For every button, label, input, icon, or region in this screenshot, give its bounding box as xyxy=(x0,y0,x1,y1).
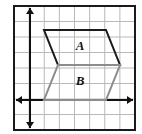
shape-a-label: A xyxy=(75,38,85,53)
coordinate-grid-figure: AB xyxy=(0,0,142,134)
grid-diagram-svg: AB xyxy=(0,0,142,134)
shape-b-label: B xyxy=(75,73,85,88)
